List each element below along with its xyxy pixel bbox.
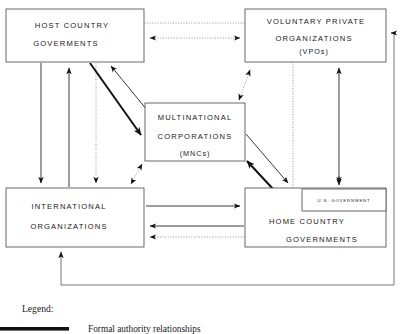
box-voluntary-private-organizations[interactable]: VOLUNTARY PRIVATE ORGANIZATIONS (VPOs) <box>245 9 386 62</box>
box-label-line: VOLUNTARY PRIVATE <box>267 17 366 26</box>
connector-vpo-mnc-dotted <box>239 70 250 100</box>
legend-entry-label: Formal authority relationships <box>88 324 201 334</box>
relationship-diagram: HOST COUNTRY GOVERMENTS VOLUNTARY PRIVAT… <box>0 0 409 334</box>
box-label-line: INTERNATIONAL <box>31 202 106 211</box>
connector-mnc-to-home <box>246 134 288 183</box>
box-label-line: CORPORATIONS <box>158 132 233 141</box>
legend-thick-line-swatch <box>0 327 69 331</box>
connector-home-to-mnc-authority <box>247 161 273 189</box>
legend-title: Legend: <box>22 303 53 314</box>
box-label-line: HOST COUNTRY <box>35 21 109 30</box>
box-label-line: MULTINATIONAL <box>158 113 233 122</box>
connector-host-to-mnc-authority <box>90 63 141 135</box>
diagram-page: HOST COUNTRY GOVERMENTS VOLUNTARY PRIVAT… <box>0 0 409 334</box>
box-label-line: ORGANIZATIONS <box>30 222 107 231</box>
box-international-organizations[interactable]: INTERNATIONAL ORGANIZATIONS <box>6 188 144 247</box>
box-label-line: GOVERMENTS <box>33 39 99 48</box>
box-label-line: HOME COUNTRY <box>269 217 345 226</box>
box-label-line: ORGANIZATIONS <box>275 34 352 43</box>
box-us-government[interactable]: U.S. GOVERNMENT <box>302 189 386 211</box>
box-label-line: (MNCs) <box>180 149 211 158</box>
connector-mnc-to-host <box>111 66 147 110</box>
box-host-country-governments[interactable]: HOST COUNTRY GOVERMENTS <box>6 9 144 62</box>
box-label-line: (VPOs) <box>299 47 329 56</box>
legend: Legend: Formal authority relationships <box>0 303 201 334</box>
us-government-label: U.S. GOVERNMENT <box>317 198 370 203</box>
box-label-line: GOVERNMENTS <box>286 235 358 244</box>
connector-mnc-international-dotted <box>131 164 142 184</box>
box-multinational-corporations[interactable]: MULTINATIONAL CORPORATIONS (MNCs) <box>145 103 245 161</box>
